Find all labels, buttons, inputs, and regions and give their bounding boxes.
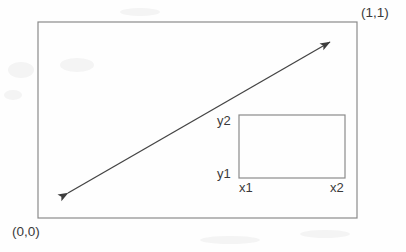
figure-canvas: (1,1) (0,0) y2 y1 x1 x2 bbox=[0, 0, 406, 252]
label-y2: y2 bbox=[217, 114, 231, 127]
diagram-svg bbox=[0, 0, 406, 252]
label-x1: x1 bbox=[239, 181, 253, 194]
bounding-box-outline bbox=[239, 115, 345, 178]
label-y1: y1 bbox=[217, 167, 231, 180]
diagonal-double-arrow bbox=[68, 42, 330, 193]
label-x2: x2 bbox=[330, 181, 344, 194]
label-unit-corner: (1,1) bbox=[361, 6, 389, 20]
unit-square-outline bbox=[38, 22, 357, 218]
label-origin: (0,0) bbox=[12, 225, 40, 239]
